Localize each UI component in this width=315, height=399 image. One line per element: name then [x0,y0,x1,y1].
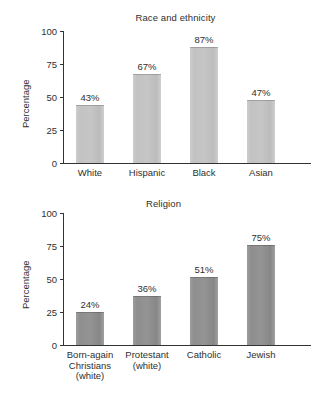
plot-area-religion: 24%Born-again Christians (white)36%Prote… [63,213,311,346]
y-axis-tick [60,312,65,313]
x-axis-category-label: Protestant (white) [125,350,168,371]
bar[interactable] [190,47,218,163]
bar-value-label: 36% [137,283,156,294]
bar-group-religion: 24%Born-again Christians (white)36%Prote… [64,213,311,345]
x-axis-category-label: Hispanic [129,168,165,179]
y-axis-tick [60,163,65,164]
y-axis-tick-label: 100 [41,208,57,219]
x-axis-category-label: Catholic [187,350,221,361]
bar[interactable] [247,100,275,163]
bar[interactable] [76,312,104,345]
y-axis-tick-label: 75 [46,241,57,252]
x-axis-category-label: Born-again Christians (white) [67,350,113,382]
y-axis-tick [60,345,65,346]
bar-slot: 51%Catholic [190,213,218,345]
bar[interactable] [190,277,218,345]
y-axis-tick [60,246,65,247]
bar-slot: 36%Protestant (white) [133,213,161,345]
chart-page: { "figure": { "background": "#ffffff", "… [0,0,315,399]
y-axis-tick-label: 25 [46,307,57,318]
chart-panel-race: Race and ethnicity Percentage 43%White67… [0,0,315,196]
x-axis-category-label: White [78,168,102,179]
x-axis-category-label: Black [192,168,215,179]
plot-area-race: 43%White67%Hispanic87%Black47%Asian 0255… [63,31,311,164]
bar-slot: 43%White [76,31,104,163]
y-axis-tick [60,130,65,131]
bar-slot: 47%Asian [247,31,275,163]
bar-slot: 24%Born-again Christians (white) [76,213,104,345]
y-axis-tick [60,31,65,32]
bar-slot: 87%Black [190,31,218,163]
y-axis-label-religion: Percentage [20,260,31,309]
y-axis-tick-label: 0 [52,340,57,351]
x-axis-category-label: Jewish [246,350,275,361]
y-axis-tick-label: 100 [41,26,57,37]
x-axis-category-label: Asian [249,168,273,179]
bar[interactable] [76,105,104,163]
bar-value-label: 24% [80,299,99,310]
chart-panel-religion: Religion Percentage 24%Born-again Christ… [0,196,315,399]
bar-group-race: 43%White67%Hispanic87%Black47%Asian [64,31,311,163]
y-axis-tick-label: 25 [46,125,57,136]
y-axis-tick [60,213,65,214]
y-axis-label-race: Percentage [20,79,31,128]
bar-value-label: 43% [80,92,99,103]
y-axis-tick [60,64,65,65]
bar-slot: 75%Jewish [247,213,275,345]
y-axis-tick-label: 50 [46,92,57,103]
y-axis-tick [60,279,65,280]
bar[interactable] [133,296,161,345]
bar[interactable] [247,245,275,345]
y-axis-tick [60,97,65,98]
bar-value-label: 75% [251,232,270,243]
bar-value-label: 67% [137,61,156,72]
chart-title-race: Race and ethnicity [18,12,315,23]
y-axis-tick-label: 50 [46,274,57,285]
bar-value-label: 51% [194,264,213,275]
bar-value-label: 87% [194,34,213,45]
bar-slot: 67%Hispanic [133,31,161,163]
y-axis-tick-label: 0 [52,158,57,169]
bar-value-label: 47% [251,87,270,98]
y-axis-tick-label: 75 [46,59,57,70]
bar[interactable] [133,74,161,163]
